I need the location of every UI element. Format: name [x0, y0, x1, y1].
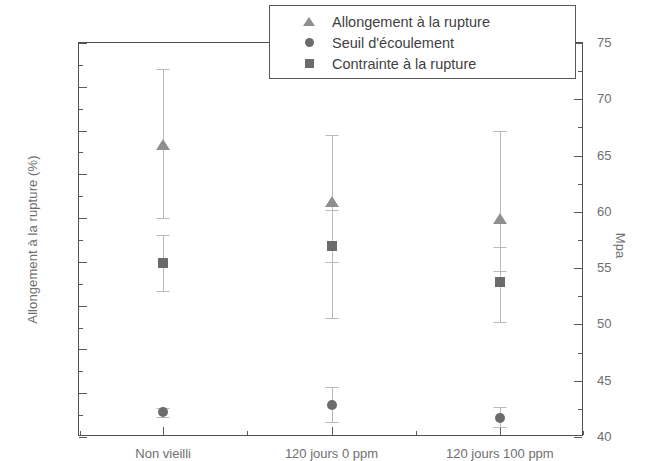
right-tick-label: 45 — [597, 373, 637, 388]
legend-item-label: Contrainte à la rupture — [332, 56, 476, 72]
left-tick-minor — [79, 152, 83, 153]
right-tick-minor — [578, 71, 582, 72]
right-tick-major — [574, 268, 582, 269]
left-tick-major — [79, 393, 87, 394]
left-tick-major — [79, 174, 87, 175]
right-tick-label: 40 — [597, 429, 637, 444]
error-bar-cap — [325, 387, 338, 388]
right-tick-label: 60 — [597, 204, 637, 219]
left-tick-major — [79, 262, 87, 263]
x-tick-minor — [80, 431, 81, 435]
right-tick-minor — [578, 296, 582, 297]
error-bar-cap — [157, 235, 170, 236]
left-tick-minor — [79, 328, 83, 329]
data-point-triangle — [493, 213, 507, 224]
right-tick-label: 70 — [597, 91, 637, 106]
data-point-triangle — [156, 139, 170, 150]
error-bar-cap — [493, 247, 506, 248]
data-point-triangle — [325, 196, 339, 207]
x-tick-minor — [247, 431, 248, 435]
x-tick-minor — [583, 431, 584, 435]
data-point-square — [327, 241, 337, 251]
right-tick-major — [574, 324, 582, 325]
error-bar-cap — [493, 322, 506, 323]
right-tick-major — [574, 156, 582, 157]
data-point-square — [495, 277, 505, 287]
error-bar-cap — [157, 218, 170, 219]
legend-circle-icon — [298, 38, 320, 47]
error-bar-cap — [157, 69, 170, 70]
right-tick-label: 50 — [597, 316, 637, 331]
legend-item: Seuil d'écoulement — [270, 32, 575, 53]
right-tick-minor — [578, 409, 582, 410]
x-tick-major — [163, 427, 164, 435]
left-tick-minor — [79, 196, 83, 197]
left-tick-major — [79, 43, 87, 44]
left-tick-major — [79, 87, 87, 88]
right-tick-major — [574, 437, 582, 438]
right-tick-label: 55 — [597, 260, 637, 275]
left-tick-minor — [79, 109, 83, 110]
error-bar-cap — [493, 427, 506, 428]
left-tick-major — [79, 437, 87, 438]
x-tick-label: Non vieilli — [73, 446, 253, 461]
error-bar-cap — [325, 135, 338, 136]
x-tick-label: 120 jours 100 ppm — [410, 446, 590, 461]
right-tick-minor — [578, 184, 582, 185]
right-tick-label: 75 — [597, 35, 637, 50]
left-axis-title: Allongement à la rupture (%) — [25, 110, 40, 370]
left-tick-major — [79, 306, 87, 307]
left-tick-minor — [79, 240, 83, 241]
x-tick-label: 120 jours 0 ppm — [242, 446, 422, 461]
data-point-circle — [327, 400, 337, 410]
legend-item-label: Allongement à la rupture — [332, 14, 490, 30]
x-tick-major — [332, 427, 333, 435]
error-bar-cap — [493, 407, 506, 408]
error-bar-cap — [325, 210, 338, 211]
right-tick-major — [574, 381, 582, 382]
right-tick-minor — [578, 353, 582, 354]
right-tick-major — [574, 212, 582, 213]
legend-item-label: Seuil d'écoulement — [332, 35, 454, 51]
legend-item: Contrainte à la rupture — [270, 53, 575, 74]
right-tick-label: 65 — [597, 148, 637, 163]
error-bar-cap — [325, 422, 338, 423]
data-point-circle — [158, 407, 168, 417]
legend-square-icon — [298, 59, 320, 68]
right-tick-minor — [578, 240, 582, 241]
data-point-circle — [495, 413, 505, 423]
x-tick-major — [500, 427, 501, 435]
chart-legend: Allongement à la ruptureSeuil d'écouleme… — [269, 5, 576, 79]
error-bar-cap — [325, 318, 338, 319]
left-tick-minor — [79, 371, 83, 372]
legend-item: Allongement à la rupture — [270, 11, 575, 32]
right-tick-major — [574, 99, 582, 100]
left-tick-major — [79, 131, 87, 132]
error-bar — [332, 210, 333, 318]
left-tick-minor — [79, 284, 83, 285]
left-tick-minor — [79, 415, 83, 416]
error-bar-cap — [493, 131, 506, 132]
left-tick-minor — [79, 65, 83, 66]
left-tick-major — [79, 349, 87, 350]
plot-area: 5060708090100110120130140 40455055606570… — [78, 42, 583, 436]
right-tick-minor — [578, 127, 582, 128]
data-point-square — [158, 258, 168, 268]
error-bar-cap — [157, 291, 170, 292]
legend-triangle-icon — [298, 17, 320, 26]
left-tick-major — [79, 218, 87, 219]
x-tick-minor — [416, 431, 417, 435]
